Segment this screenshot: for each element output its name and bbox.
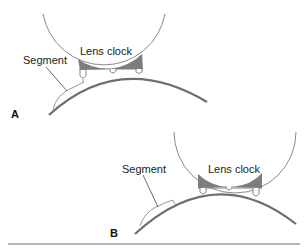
panel-label-a: A: [11, 108, 19, 120]
lens-clock-label-b: Lens clock: [208, 163, 260, 175]
pin-center-b: [226, 186, 232, 190]
pin-center-a: [110, 69, 116, 73]
lens-clock-label-a: Lens clock: [80, 45, 132, 57]
lens-surface-a: [49, 79, 207, 115]
segment-leader-b: [143, 175, 158, 207]
panel-b: Lens clock Segment B: [110, 132, 296, 239]
lens-clock-shading-left-b: [198, 174, 228, 188]
lens-clock-diagram: Lens clock Segment A Lens clock Segment …: [0, 0, 308, 250]
pin-left-a: [80, 70, 86, 78]
lens-clock-shading-right-b: [232, 173, 262, 188]
segment-leader-a: [46, 67, 67, 91]
panel-label-b: B: [110, 227, 118, 239]
segment-b: [140, 200, 175, 226]
segment-a: [53, 82, 84, 110]
segment-label-b: Segment: [122, 163, 166, 175]
segment-label-a: Segment: [23, 54, 67, 66]
panel-a: Lens clock Segment A: [11, 14, 207, 120]
pin-left-b: [200, 188, 206, 194]
pin-right-b: [253, 188, 259, 196]
lens-surface-b: [135, 194, 296, 234]
pin-right-a: [136, 69, 142, 74]
